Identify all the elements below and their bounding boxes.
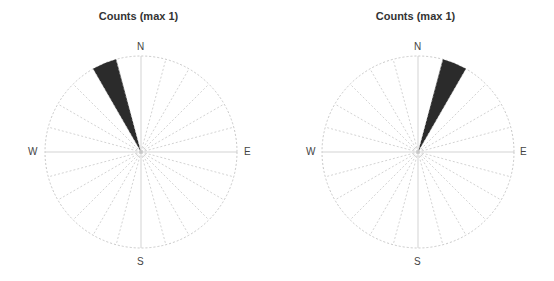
grid-spoke bbox=[48, 127, 141, 152]
grid-spoke bbox=[325, 152, 418, 177]
grid-spoke bbox=[418, 152, 511, 177]
west-label: W bbox=[306, 147, 315, 157]
grid-spoke bbox=[141, 84, 209, 152]
grid-spoke bbox=[418, 152, 501, 200]
grid-spoke bbox=[141, 152, 224, 200]
south-label: S bbox=[137, 257, 144, 267]
grid-spoke bbox=[141, 104, 224, 152]
grid-spoke bbox=[93, 152, 141, 235]
plot-title: Counts (max 1) bbox=[0, 10, 277, 22]
grid-spoke bbox=[418, 152, 486, 220]
count-sector bbox=[93, 59, 141, 152]
grid-spoke bbox=[335, 152, 418, 200]
grid-spoke bbox=[393, 152, 418, 245]
south-label: S bbox=[414, 257, 421, 267]
north-label: N bbox=[414, 42, 421, 52]
grid-spoke bbox=[370, 152, 418, 235]
grid-spoke bbox=[141, 127, 234, 152]
count-sector bbox=[418, 59, 466, 152]
grid-spoke bbox=[141, 152, 234, 177]
grid-spoke bbox=[350, 152, 418, 220]
grid-spoke bbox=[418, 127, 511, 152]
grid-spoke bbox=[418, 152, 443, 245]
grid-spoke bbox=[73, 152, 141, 220]
grid-spoke bbox=[141, 152, 189, 235]
grid-spoke bbox=[370, 69, 418, 152]
plot-title: Counts (max 1) bbox=[277, 10, 554, 22]
east-label: E bbox=[520, 147, 527, 157]
rose-plot-2: Counts (max 1) N E S W bbox=[277, 0, 554, 281]
west-label: W bbox=[28, 147, 37, 157]
east-label: E bbox=[244, 147, 251, 157]
grid-spoke bbox=[141, 59, 166, 152]
north-label: N bbox=[137, 42, 144, 52]
grid-spoke bbox=[141, 152, 166, 245]
rose-plot-1: Counts (max 1) N E S W bbox=[0, 0, 277, 281]
grid-spoke bbox=[325, 127, 418, 152]
grid-spoke bbox=[141, 69, 189, 152]
grid-spoke bbox=[350, 84, 418, 152]
grid-spoke bbox=[116, 152, 141, 245]
grid-spoke bbox=[141, 152, 209, 220]
grid-spoke bbox=[335, 104, 418, 152]
grid-spoke bbox=[48, 152, 141, 177]
grid-spoke bbox=[58, 152, 141, 200]
grid-spoke bbox=[418, 152, 466, 235]
grid-spoke bbox=[393, 59, 418, 152]
